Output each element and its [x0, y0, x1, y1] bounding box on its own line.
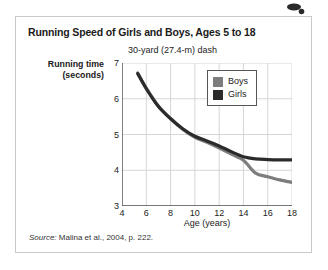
x-tick-14: 14 [238, 209, 248, 218]
legend-swatch-girls [213, 90, 223, 100]
x-tick-10: 10 [190, 209, 200, 218]
x-tick-16: 16 [263, 209, 273, 218]
y-axis-title-line1: Running time [48, 59, 104, 69]
figure-container: Running Speed of Girls and Boys, Ages 5 … [15, 16, 312, 253]
x-axis-title: Age (years) [122, 218, 292, 228]
legend-item-boys: Boys [213, 75, 248, 88]
x-tick-4: 4 [119, 209, 124, 218]
legend-item-girls: Girls [213, 88, 248, 101]
legend-label-girls: Girls [228, 90, 247, 99]
x-tick-8: 8 [168, 209, 173, 218]
chart-title: Running Speed of Girls and Boys, Ages 5 … [28, 26, 255, 38]
legend-label-boys: Boys [228, 77, 248, 86]
x-tick-12: 12 [214, 209, 224, 218]
y-tick-3: 3 [114, 202, 119, 211]
x-tick-18: 18 [287, 209, 297, 218]
y-tick-7: 7 [114, 59, 119, 68]
legend-swatch-boys [213, 77, 223, 87]
y-tick-5: 5 [114, 130, 119, 139]
y-axis-title-line2: (seconds) [26, 70, 104, 81]
cursor-artifact [287, 2, 305, 15]
y-tick-6: 6 [114, 94, 119, 103]
x-tick-6: 6 [144, 209, 149, 218]
y-tick-4: 4 [114, 166, 119, 175]
source-note: Source: Malina et al., 2004, p. 222. [29, 233, 153, 242]
source-label: Source: [29, 233, 57, 242]
y-axis-title: Running time (seconds) [26, 59, 104, 81]
chart-subtitle: 30-yard (27.4-m) dash [16, 45, 311, 55]
plot-wrapper: 34567 4681012141618 Age (years) Boys Gir… [104, 58, 300, 220]
source-citation: Malina et al., 2004, p. 222. [57, 233, 154, 242]
chart-legend: Boys Girls [207, 70, 257, 106]
